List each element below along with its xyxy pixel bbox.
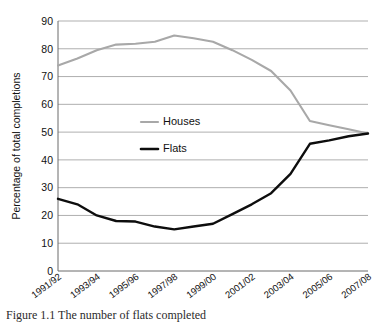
figure-container: 0102030405060708090 1991/921993/941995/9… bbox=[0, 0, 377, 323]
x-tick-label: 1999/00 bbox=[184, 271, 218, 300]
gridlines-group bbox=[58, 21, 368, 243]
x-tick-label: 2005/06 bbox=[300, 271, 334, 300]
y-tick-labels-group: 0102030405060708090 bbox=[41, 15, 53, 277]
y-tick-label: 10 bbox=[41, 237, 53, 249]
y-tick-label: 90 bbox=[41, 15, 53, 27]
legend-label-flats: Flats bbox=[163, 142, 187, 154]
y-tick-label: 60 bbox=[41, 98, 53, 110]
line-chart: 0102030405060708090 1991/921993/941995/9… bbox=[0, 0, 377, 323]
series-line-flats bbox=[58, 134, 368, 230]
x-tick-label: 1997/98 bbox=[145, 271, 179, 300]
y-tick-label: 30 bbox=[41, 181, 53, 193]
x-tick-labels-group: 1991/921993/941995/961997/981999/002001/… bbox=[29, 271, 373, 300]
axes-group bbox=[58, 21, 368, 271]
x-tick-label: 1995/96 bbox=[107, 271, 141, 300]
y-tick-label: 20 bbox=[41, 209, 53, 221]
x-tick-label: 2003/04 bbox=[262, 271, 296, 300]
x-tick-label: 2001/02 bbox=[223, 271, 257, 300]
y-tick-label: 50 bbox=[41, 126, 53, 138]
y-tick-label: 40 bbox=[41, 154, 53, 166]
y-tick-label: 70 bbox=[41, 70, 53, 82]
figure-caption: Figure 1.1 The number of flats completed bbox=[6, 308, 206, 323]
series-line-houses bbox=[58, 35, 368, 133]
y-axis-title: Percentage of total completions bbox=[10, 72, 22, 219]
y-tick-label: 80 bbox=[41, 43, 53, 55]
x-tick-label: 1993/94 bbox=[68, 271, 102, 300]
chart-legend: HousesFlats bbox=[141, 115, 201, 154]
legend-label-houses: Houses bbox=[163, 115, 201, 127]
x-tick-label: 2007/08 bbox=[339, 271, 373, 300]
